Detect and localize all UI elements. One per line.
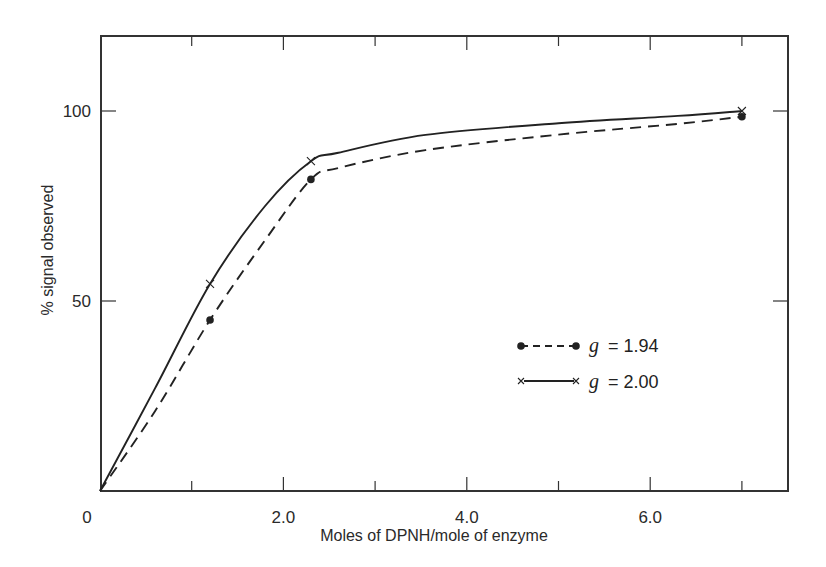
curve-g-1.94-dashed — [100, 117, 742, 491]
data-point-dot-marker — [307, 176, 315, 184]
data-markers — [206, 107, 746, 324]
legend-item-g-1.94: g = 1.94 — [517, 334, 658, 357]
data-curves — [100, 111, 742, 491]
legend-dot-marker-icon — [572, 342, 580, 350]
y-axis-title: % signal observed — [39, 185, 56, 316]
x-tick-label: 4.0 — [455, 508, 479, 527]
y-tick-label: 100 — [63, 102, 91, 121]
legend-text: g = 1.94 — [589, 334, 659, 357]
legend-x-marker-icon — [518, 378, 524, 384]
legend: g = 1.94 g = 2.00 — [517, 334, 658, 393]
plot-svg: 02.04.06.050100 Moles of DPNH/mole of en… — [0, 0, 826, 567]
legend-g-symbol: g — [589, 370, 599, 393]
legend-dot-marker-icon — [517, 342, 525, 350]
legend-value: = 2.00 — [608, 372, 659, 392]
x-tick-label: 2.0 — [272, 508, 296, 527]
plot-frame — [101, 36, 788, 491]
data-point-x-marker — [206, 280, 214, 288]
axis-ticks — [101, 36, 788, 491]
chart: 02.04.06.050100 Moles of DPNH/mole of en… — [0, 0, 826, 567]
x-tick-label: 0 — [82, 508, 91, 527]
legend-g-symbol: g — [589, 334, 599, 357]
data-point-dot-marker — [206, 316, 214, 324]
curve-g-2.00-solid — [100, 111, 742, 491]
data-point-x-marker — [307, 157, 315, 165]
x-tick-label: 6.0 — [638, 508, 662, 527]
legend-value: = 1.94 — [608, 336, 659, 356]
y-tick-label: 50 — [72, 292, 91, 311]
x-axis-title: Moles of DPNH/mole of enzyme — [320, 527, 548, 544]
legend-text: g = 2.00 — [589, 370, 659, 393]
axis-tick-labels: 02.04.06.050100 — [63, 102, 662, 527]
legend-item-g-2.00: g = 2.00 — [518, 370, 659, 393]
